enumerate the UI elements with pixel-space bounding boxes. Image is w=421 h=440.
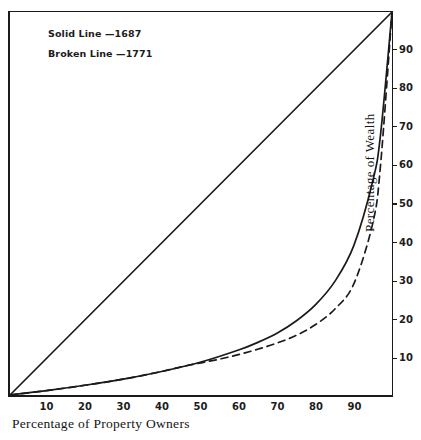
x-tick-label-50: 50 [188,401,214,412]
y-tick-mark-60 [393,165,397,166]
y-tick-mark-80 [393,88,397,89]
x-tick-label-80: 80 [303,401,329,412]
y-tick-mark-30 [393,281,397,282]
x-axis-title: Percentage of Property Owners [12,416,190,432]
x-tick-label-90: 90 [342,401,368,412]
y-tick-label-80: 80 [399,83,421,93]
y-tick-label-70: 70 [399,122,421,132]
y-tick-label-10: 10 [399,353,421,363]
series-line-1 [10,12,392,395]
legend-item-broken-line: Broken Line —1771 [48,48,153,59]
y-tick-label-20: 20 [399,315,421,325]
y-tick-label-50: 50 [399,199,421,209]
x-tick-label-20: 20 [72,401,98,412]
y-tick-mark-10 [393,358,397,359]
y-tick-mark-50 [393,203,397,204]
curve-canvas [10,12,392,395]
plot-area [8,11,393,397]
x-tick-label-60: 60 [226,401,252,412]
x-tick-label-70: 70 [265,401,291,412]
y-tick-mark-90 [393,49,397,50]
lorenz-curve-figure: Solid Line —1687 Broken Line —1771 10203… [0,0,421,440]
legend: Solid Line —1687 Broken Line —1771 [48,28,153,68]
y-axis-title: Percentage of Wealth [362,82,378,232]
y-tick-mark-40 [393,242,397,243]
y-tick-mark-70 [393,126,397,127]
x-tick-label-10: 10 [34,401,60,412]
y-tick-label-30: 30 [399,276,421,286]
y-tick-label-40: 40 [399,238,421,248]
y-tick-label-60: 60 [399,160,421,170]
legend-item-solid-line: Solid Line —1687 [48,28,153,39]
y-tick-label-90: 90 [399,45,421,55]
y-tick-mark-20 [393,319,397,320]
x-tick-label-30: 30 [111,401,137,412]
x-tick-label-40: 40 [149,401,175,412]
